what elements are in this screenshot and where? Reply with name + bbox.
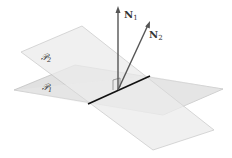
arrowhead-n1-icon bbox=[116, 6, 121, 13]
label-n2: N2 bbox=[149, 29, 163, 42]
intersecting-planes-diagram: N1 N2 𝒫2 𝒫1 bbox=[0, 0, 232, 158]
label-n1: N1 bbox=[124, 9, 138, 22]
arrowhead-n2-icon bbox=[145, 21, 150, 29]
